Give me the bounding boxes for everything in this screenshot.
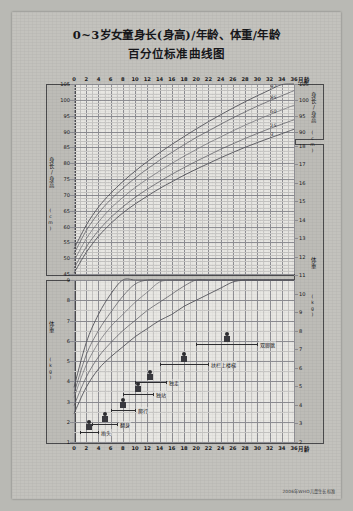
gridline-horizontal xyxy=(74,154,294,155)
gridline-horizontal xyxy=(74,113,294,114)
gridline-horizontal xyxy=(74,125,294,126)
gridline-horizontal xyxy=(74,116,294,117)
gridline-horizontal xyxy=(74,381,294,382)
weight-tick-mark xyxy=(294,442,298,443)
milestone-range-bar xyxy=(196,344,257,345)
gridline-horizontal xyxy=(74,239,294,240)
height-tick-mark xyxy=(70,132,74,133)
gridline-horizontal xyxy=(74,233,294,234)
milestone-range-cap xyxy=(92,423,93,426)
percentile-label-50: 50 xyxy=(271,109,277,114)
weight-tick-mark xyxy=(294,331,298,332)
height-tick-mark xyxy=(70,211,74,212)
gridline-horizontal xyxy=(74,211,294,212)
weight-tick-mark xyxy=(70,402,74,403)
gridline-horizontal xyxy=(74,246,294,247)
weight-tick-mark xyxy=(70,341,74,342)
milestone-figure-body xyxy=(147,374,153,380)
weight-axis-unit-right: (kg) xyxy=(310,294,315,318)
milestone-range-bar xyxy=(111,410,135,411)
gridline-horizontal xyxy=(74,217,294,218)
weight-tick-mark xyxy=(294,294,298,295)
height-tick-mark xyxy=(70,147,74,148)
gridline-horizontal xyxy=(74,192,294,193)
gridline-horizontal xyxy=(74,189,294,190)
gridline-horizontal xyxy=(74,258,294,259)
gridline-horizontal xyxy=(74,271,294,272)
weight-tick-label: 3 xyxy=(52,399,70,405)
weight-tick-mark xyxy=(70,321,74,322)
gridline-horizontal xyxy=(74,170,294,171)
milestone-range-bar xyxy=(80,432,98,433)
gridline-horizontal xyxy=(74,242,294,243)
gridline-horizontal xyxy=(74,255,294,256)
weight-tick-label-right: 7 xyxy=(299,346,302,352)
height-tick-mark xyxy=(70,274,74,275)
poster-title: 0~3岁女童身长(身高)/年龄、体重/年龄 百分位标准曲线图 xyxy=(12,26,341,61)
chart-area: 0022446688101012121414161618182020222224… xyxy=(26,74,327,474)
height-tick-label: 70 xyxy=(52,192,70,198)
source-footer: 2006年WHO儿童生长标准 xyxy=(282,488,335,494)
height-tick-mark xyxy=(70,100,74,101)
milestone-range-cap xyxy=(135,409,136,412)
milestone-figure-body xyxy=(224,336,230,342)
height-tick-label: 50 xyxy=(52,255,70,261)
weight-tick-mark xyxy=(294,312,298,313)
height-tick-mark xyxy=(294,132,298,133)
gridline-horizontal xyxy=(74,195,294,196)
gridline-horizontal xyxy=(74,109,294,110)
gridline-horizontal xyxy=(74,371,294,372)
gridline-vertical xyxy=(294,84,295,274)
weight-tick-label: 1 xyxy=(52,439,70,445)
gridline-horizontal xyxy=(74,166,294,167)
gridline-horizontal xyxy=(74,274,294,275)
weight-tick-mark xyxy=(294,146,298,147)
gridline-horizontal xyxy=(74,160,294,161)
gridline-horizontal xyxy=(74,182,294,183)
milestone-range-cap xyxy=(135,381,136,384)
weight-tick-mark xyxy=(294,183,298,184)
weight-axis-title-right: 体重 xyxy=(310,257,318,269)
gridline-horizontal xyxy=(74,391,294,392)
gridline-horizontal xyxy=(74,223,294,224)
title-line-2: 百分位标准曲线图 xyxy=(12,45,341,61)
milestone-range-cap xyxy=(153,393,154,396)
weight-tick-mark xyxy=(70,300,74,301)
gridline-horizontal xyxy=(74,173,294,174)
milestone-label: 独站 xyxy=(155,391,167,398)
height-axis-title: 身长/身高 xyxy=(48,157,56,188)
gridline-horizontal xyxy=(74,163,294,164)
weight-tick-label: 8 xyxy=(52,297,70,303)
gridline-horizontal xyxy=(74,280,294,281)
weight-tick-label: 6 xyxy=(52,338,70,344)
milestone-range-bar xyxy=(160,364,209,365)
weight-tick-mark xyxy=(294,257,298,258)
height-tick-mark xyxy=(70,227,74,228)
milestone-range-cap xyxy=(98,431,99,434)
weight-tick-label-right: 5 xyxy=(299,383,302,389)
percentile-label-15: 15 xyxy=(271,123,277,128)
gridline-horizontal xyxy=(74,252,294,253)
weight-tick-label-right: 11 xyxy=(299,272,305,278)
milestone-label: 爬行 xyxy=(137,407,149,414)
milestone-range-cap xyxy=(196,343,197,346)
weight-tick-label-right: 9 xyxy=(299,309,302,315)
milestone-range-cap xyxy=(208,363,209,366)
height-tick-label: 105 xyxy=(52,81,70,87)
milestone-range-bar xyxy=(123,394,154,395)
gridline-horizontal xyxy=(74,100,294,101)
height-tick-label: 60 xyxy=(52,224,70,230)
weight-tick-mark xyxy=(70,381,74,382)
height-axis-unit: (cm) xyxy=(48,208,53,232)
weight-tick-label-right: 17 xyxy=(299,161,305,167)
weight-tick-label-right: 12 xyxy=(299,254,305,260)
gridline-horizontal xyxy=(74,147,294,148)
gridline-horizontal xyxy=(74,90,294,91)
weight-axis-title: 体重 xyxy=(48,321,56,333)
gridline-horizontal xyxy=(74,220,294,221)
milestone-range-cap xyxy=(257,343,258,346)
milestone-figure-body xyxy=(135,386,141,392)
gridline-horizontal xyxy=(74,412,294,413)
gridline-horizontal xyxy=(74,265,294,266)
milestone-range-cap xyxy=(117,423,118,426)
